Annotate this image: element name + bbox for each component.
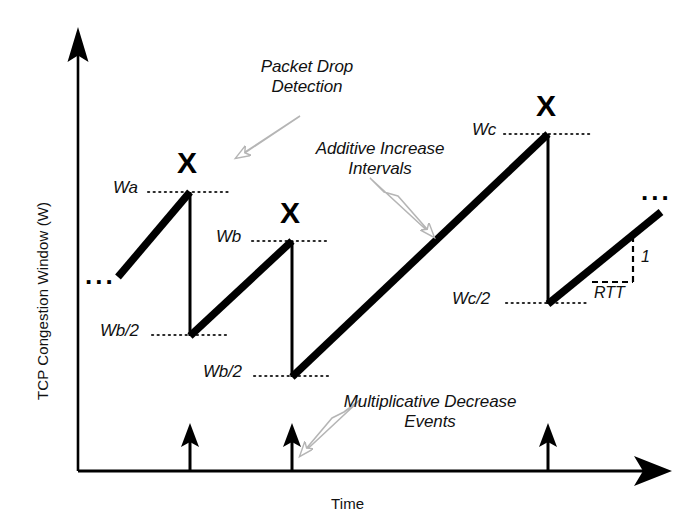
level-label-wc-half: Wc/2 xyxy=(452,289,490,309)
slope-run-label: RTT xyxy=(594,284,625,303)
slope-rise-label: 1 xyxy=(641,248,650,267)
x-axis-label: Time xyxy=(331,495,364,513)
left-ellipsis: ... xyxy=(85,262,116,288)
level-label-wb: Wb xyxy=(216,227,241,247)
annotation-additive-increase: Additive Increase Intervals xyxy=(300,139,460,179)
additive-ramp-2 xyxy=(190,241,292,336)
annotation-multiplicative-decrease: Multiplicative Decrease Events xyxy=(330,392,530,432)
level-label-wa: Wa xyxy=(113,178,138,198)
drop-marker-c: X xyxy=(536,91,556,121)
y-axis-label: TCP Congestion Window (W) xyxy=(34,202,52,400)
drop-marker-a: X xyxy=(177,148,197,178)
leader-packet-drop xyxy=(236,116,300,158)
annotation-packet-drop-line2: Detection xyxy=(232,77,382,97)
level-label-wc: Wc xyxy=(472,120,496,140)
level-label-wb-half-1: Wb/2 xyxy=(100,321,139,341)
annotation-multiplicative-decrease-line2: Events xyxy=(330,412,530,432)
tcp-congestion-window-figure: TCP Congestion Window (W) Time Wa Wb Wb/… xyxy=(0,0,696,531)
right-ellipsis: ... xyxy=(641,178,672,204)
annotation-packet-drop-line1: Packet Drop xyxy=(232,57,382,77)
drop-marker-b: X xyxy=(280,198,300,228)
additive-ramp-1 xyxy=(118,192,190,277)
annotation-multiplicative-decrease-line1: Multiplicative Decrease xyxy=(330,392,530,412)
leader-additive-increase xyxy=(370,178,434,237)
level-label-wb-half-2: Wb/2 xyxy=(203,362,242,382)
annotation-additive-increase-line1: Additive Increase xyxy=(300,139,460,159)
annotation-additive-increase-line2: Intervals xyxy=(300,159,460,179)
annotation-packet-drop: Packet Drop Detection xyxy=(232,57,382,97)
